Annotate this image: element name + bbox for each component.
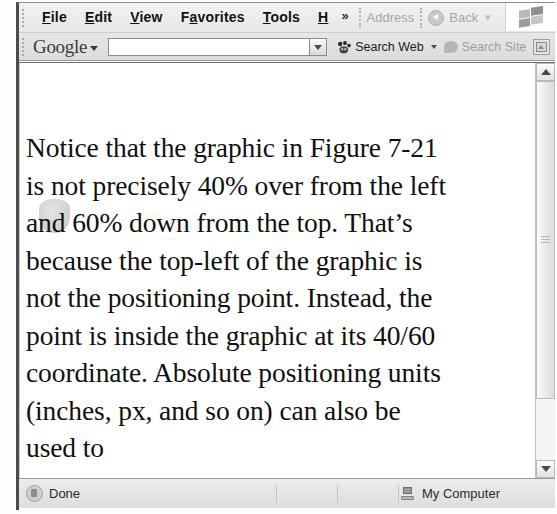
windows-flag-icon	[517, 6, 545, 28]
scrollbar-track[interactable]	[536, 81, 555, 460]
menu-overflow-icon[interactable]: »	[337, 8, 352, 23]
search-site-button[interactable]: Search Site	[444, 40, 527, 54]
toolbar-separator-1	[359, 8, 361, 28]
toolbar-area: File Edit View Favorites Tools H » Addre…	[19, 3, 555, 61]
address-label: Address	[367, 10, 415, 25]
toolbar-separator-2	[420, 8, 422, 28]
menu-item-file[interactable]: File	[33, 7, 76, 28]
menu-toolbar-row: File Edit View Favorites Tools H » Addre…	[19, 3, 555, 32]
popup-blocker-icon	[536, 42, 547, 52]
status-separator-2	[337, 485, 338, 503]
vertical-scrollbar[interactable]	[535, 63, 555, 478]
search-history-dropdown-button[interactable]	[309, 38, 327, 56]
menu-item-view[interactable]: View	[121, 7, 171, 28]
back-button-label: Back	[449, 10, 478, 25]
scrollbar-thumb[interactable]	[536, 81, 555, 399]
chevron-down-icon	[314, 45, 322, 50]
chevron-down-icon	[541, 466, 551, 472]
security-zone[interactable]: My Computer	[400, 486, 555, 501]
search-site-label: Search Site	[462, 40, 527, 54]
status-text: Done	[49, 486, 80, 501]
google-toolbar-row: Google Search Web Sea	[19, 32, 555, 61]
security-zone-label: My Computer	[422, 486, 500, 501]
scroll-up-button[interactable]	[536, 63, 555, 81]
back-button[interactable]: Back ▾	[428, 10, 491, 26]
my-computer-icon	[400, 487, 415, 501]
content-area: Notice that the graphic in Figure 7-21 i…	[19, 62, 555, 478]
menu-item-help[interactable]: H	[309, 7, 337, 28]
search-input[interactable]	[108, 38, 309, 56]
google-logo-button[interactable]: Google	[33, 36, 100, 58]
document-paragraph: Notice that the graphic in Figure 7-21 i…	[26, 129, 446, 467]
scrollbar-thumb-grip	[541, 236, 550, 244]
back-dropdown-icon[interactable]: ▾	[485, 11, 491, 24]
search-web-dropdown-icon[interactable]	[431, 45, 437, 49]
document-viewport[interactable]: Notice that the graphic in Figure 7-21 i…	[19, 63, 535, 478]
google-paw-icon	[337, 41, 351, 54]
status-bar: Done My Computer	[19, 478, 555, 508]
chevron-down-icon	[90, 46, 98, 51]
back-arrow-icon	[428, 10, 444, 26]
brand-logo-button[interactable]	[505, 3, 555, 31]
popup-blocker-button[interactable]	[533, 39, 550, 55]
menubar-grip[interactable]	[22, 9, 29, 27]
speech-bubble-icon	[444, 41, 458, 53]
browser-window: File Edit View Favorites Tools H » Addre…	[0, 0, 557, 514]
google-toolbar-grip[interactable]	[22, 38, 29, 56]
menu-item-tools[interactable]: Tools	[254, 7, 309, 28]
search-web-button[interactable]: Search Web	[337, 40, 424, 54]
menu-item-favorites[interactable]: Favorites	[172, 7, 254, 28]
status-message: Done	[19, 485, 276, 502]
menu-bar: File Edit View Favorites Tools H »	[33, 7, 353, 28]
google-logo-text: Google	[33, 36, 87, 57]
menu-item-edit[interactable]: Edit	[76, 7, 121, 28]
scroll-down-button[interactable]	[536, 460, 555, 478]
status-separator-3	[398, 485, 399, 503]
search-web-label: Search Web	[355, 40, 424, 54]
status-separator-1	[276, 485, 277, 503]
chevron-up-icon	[541, 69, 551, 75]
document-icon	[26, 485, 43, 502]
